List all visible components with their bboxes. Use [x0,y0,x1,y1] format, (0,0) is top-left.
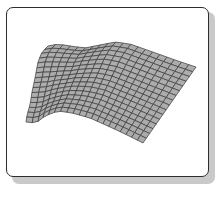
surface-mesh [26,42,196,143]
mesh-cell [30,97,38,102]
mesh-cell [31,92,39,97]
mesh-cell [26,117,33,123]
surface-plot [0,0,219,198]
